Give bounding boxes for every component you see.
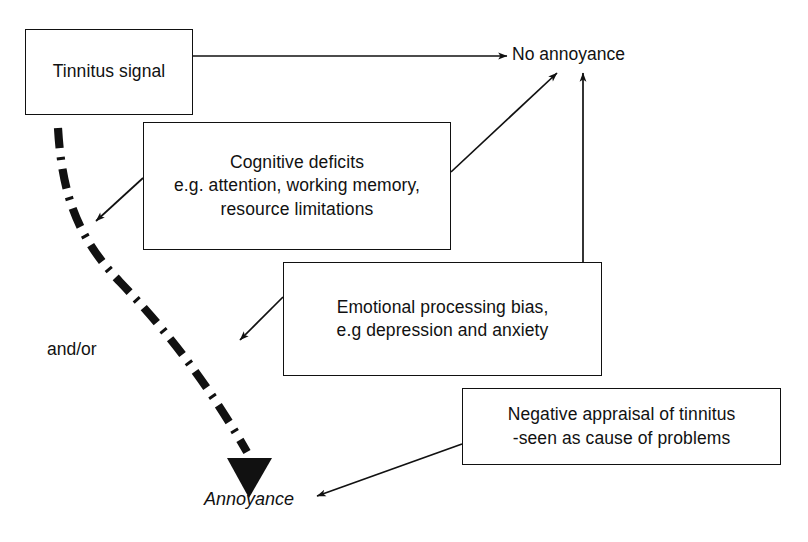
node-negative-appraisal[interactable]: Negative appraisal of tinnitus -seen as … (462, 388, 781, 465)
edge-cognitive-to-no-annoyance (451, 73, 557, 172)
label-and-or: and/or (47, 339, 97, 360)
node-cognitive-deficits[interactable]: Cognitive deficits e.g. attention, worki… (143, 122, 451, 250)
node-cognitive-deficits-label: Cognitive deficits e.g. attention, worki… (168, 151, 426, 220)
edge-negative-to-annoyance (317, 444, 462, 496)
edge-cognitive-to-path (96, 178, 143, 221)
edge-emotional-to-path (240, 297, 283, 340)
node-tinnitus-signal-label: Tinnitus signal (47, 60, 172, 83)
diagram-canvas: Tinnitus signal Cognitive deficits e.g. … (0, 0, 808, 542)
label-annoyance: Annoyance (204, 489, 294, 511)
node-emotional-processing-bias[interactable]: Emotional processing bias, e.g depressio… (283, 262, 602, 376)
node-tinnitus-signal[interactable]: Tinnitus signal (25, 29, 193, 115)
node-negative-appraisal-label: Negative appraisal of tinnitus -seen as … (502, 403, 742, 449)
label-no-annoyance: No annoyance (512, 44, 625, 65)
node-emotional-processing-bias-label: Emotional processing bias, e.g depressio… (331, 296, 555, 342)
